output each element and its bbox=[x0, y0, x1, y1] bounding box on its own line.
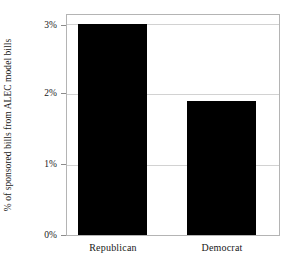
plot-area bbox=[66, 14, 280, 236]
bar-democrat bbox=[187, 101, 256, 235]
y-tick-label-1: 1% bbox=[17, 158, 57, 170]
y-tick-label-3: 3% bbox=[17, 19, 57, 31]
bar-republican bbox=[78, 24, 147, 235]
y-tick-label-0: 0% bbox=[17, 229, 57, 241]
y-tick-label-2: 2% bbox=[17, 87, 57, 99]
x-category-label-democrat: Democrat bbox=[152, 241, 292, 255]
bar-chart: % of sponsored bills from ALEC model bil… bbox=[0, 0, 293, 264]
y-axis-title-label: % of sponsored bills from ALEC model bil… bbox=[3, 39, 13, 211]
y-axis-title: % of sponsored bills from ALEC model bil… bbox=[0, 14, 16, 236]
